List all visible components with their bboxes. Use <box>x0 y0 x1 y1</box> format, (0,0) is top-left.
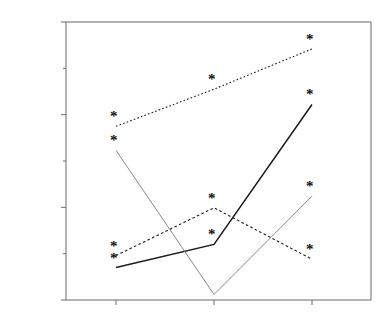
data-point-marker: * <box>110 132 118 148</box>
figure-background <box>0 0 387 330</box>
data-point-marker: * <box>306 31 314 47</box>
data-point-marker: * <box>110 238 118 254</box>
data-point-marker: * <box>208 71 216 87</box>
data-point-marker: * <box>306 86 314 102</box>
data-point-marker: * <box>306 178 314 194</box>
data-point-marker: * <box>208 190 216 206</box>
data-point-marker: * <box>110 108 118 124</box>
data-point-marker: * <box>208 226 216 242</box>
chart-figure: Correlation: Reach and nonreach speed 0.… <box>0 0 387 330</box>
plot-area: *********** <box>0 0 387 330</box>
data-point-marker: * <box>306 241 314 257</box>
